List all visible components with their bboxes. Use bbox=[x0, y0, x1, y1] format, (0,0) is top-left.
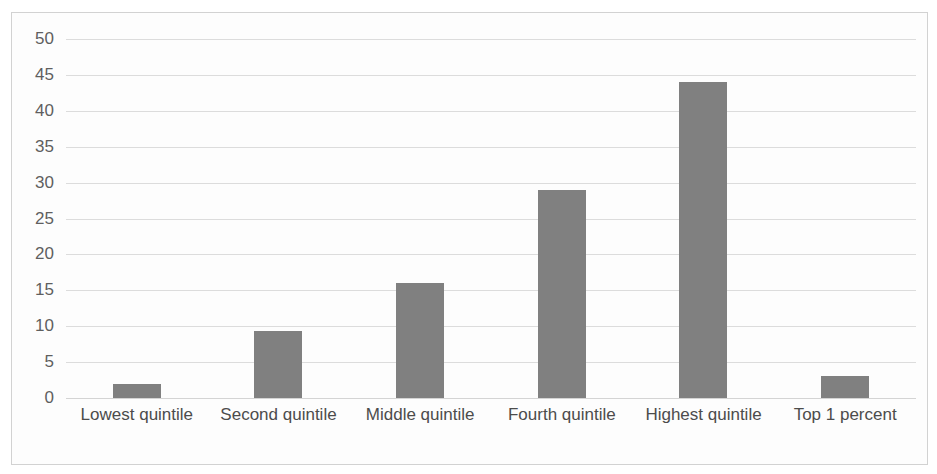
bar-slot bbox=[633, 39, 775, 398]
bar[interactable] bbox=[113, 384, 161, 398]
bar[interactable] bbox=[821, 376, 869, 398]
chart-container: 05101520253035404550 Lowest quintileSeco… bbox=[11, 12, 928, 465]
plot-area: 05101520253035404550 bbox=[66, 39, 916, 398]
bar[interactable] bbox=[679, 82, 727, 398]
y-axis-tick-label: 0 bbox=[45, 388, 54, 408]
bar[interactable] bbox=[538, 190, 586, 398]
bar[interactable] bbox=[396, 283, 444, 398]
y-axis-tick-label: 50 bbox=[35, 29, 54, 49]
category-axis: Lowest quintileSecond quintileMiddle qui… bbox=[66, 405, 916, 435]
bar-slot bbox=[66, 39, 208, 398]
category-axis-label: Second quintile bbox=[220, 405, 336, 425]
category-axis-label: Highest quintile bbox=[645, 405, 761, 425]
y-axis-tick-label: 35 bbox=[35, 137, 54, 157]
y-axis-tick-label: 15 bbox=[35, 280, 54, 300]
bar-slot bbox=[491, 39, 633, 398]
y-axis-tick-label: 40 bbox=[35, 101, 54, 121]
category-axis-label: Lowest quintile bbox=[81, 405, 193, 425]
bar[interactable] bbox=[254, 331, 302, 398]
bar-slot bbox=[349, 39, 491, 398]
bar-slot bbox=[774, 39, 916, 398]
bar-slot bbox=[208, 39, 350, 398]
bar-series bbox=[66, 39, 916, 398]
y-axis-tick-label: 30 bbox=[35, 173, 54, 193]
category-axis-label: Top 1 percent bbox=[794, 405, 897, 425]
category-axis-label: Fourth quintile bbox=[508, 405, 616, 425]
y-axis-tick-label: 25 bbox=[35, 209, 54, 229]
y-axis-tick-label: 5 bbox=[45, 352, 54, 372]
y-axis-tick-label: 20 bbox=[35, 244, 54, 264]
y-axis-tick-label: 45 bbox=[35, 65, 54, 85]
category-axis-label: Middle quintile bbox=[366, 405, 475, 425]
y-axis-tick-label: 10 bbox=[35, 316, 54, 336]
gridline: 0 bbox=[66, 398, 916, 399]
